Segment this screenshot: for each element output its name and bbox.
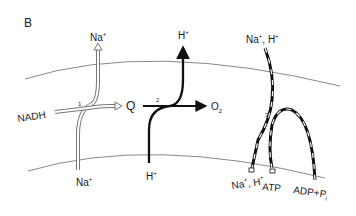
svg-text:H+: H+ <box>146 170 157 182</box>
membrane-transport-diagram: B 1 2 3 Na+ Na+ NADH Q H+ <box>0 0 356 216</box>
label-atp: ATP <box>262 181 282 194</box>
label-na-h-bottom: Na+, H+ <box>231 174 265 190</box>
label-na-bottom: Na+ <box>76 176 93 188</box>
svg-text:Na+, H+: Na+, H+ <box>246 33 279 45</box>
svg-text:Na+, H+: Na+, H+ <box>231 174 265 190</box>
svg-text:Na+: Na+ <box>90 31 107 43</box>
label-h-top: H+ <box>178 29 189 41</box>
membrane-inner-line <box>28 155 325 178</box>
label-o2: O2 <box>211 101 223 114</box>
svg-text:ADP+Pi: ADP+Pi <box>292 184 328 202</box>
label-na-top: Na+ <box>90 31 107 43</box>
svg-text:H+: H+ <box>178 29 189 41</box>
svg-text:Na+: Na+ <box>76 176 93 188</box>
label-q: Q <box>126 99 135 113</box>
label-h-bottom: H+ <box>146 170 157 182</box>
pathway-1-hollow-arrows <box>55 43 122 170</box>
svg-text:O2: O2 <box>211 101 223 114</box>
panel-label: B <box>24 16 32 30</box>
pathway-2-solid-arrows <box>143 48 205 163</box>
label-nadh: NADH <box>17 109 47 124</box>
label-adp-pi: ADP+Pi <box>292 184 328 202</box>
label-na-h-top: Na+, H+ <box>246 33 279 45</box>
reaction-number-2: 2 <box>156 97 160 103</box>
pathway-3-dashed-arrows <box>249 48 315 180</box>
reaction-number-1: 1 <box>78 101 82 107</box>
